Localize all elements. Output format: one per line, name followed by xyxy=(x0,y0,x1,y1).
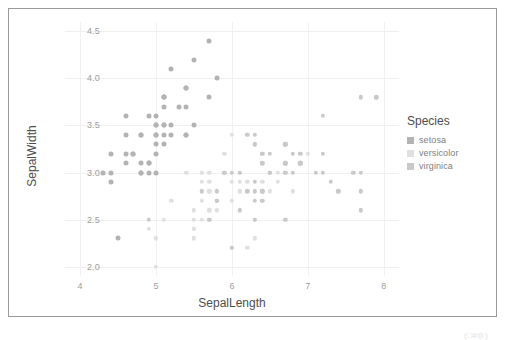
legend-swatch-icon xyxy=(407,137,414,144)
data-point-virginica xyxy=(260,161,264,165)
data-point-versicolor xyxy=(275,180,279,184)
data-point-virginica xyxy=(359,208,363,212)
data-point-virginica xyxy=(230,246,234,250)
data-point-setosa xyxy=(154,123,159,128)
data-point-setosa xyxy=(161,142,166,147)
legend-item-label: virginica xyxy=(419,161,453,171)
legend: Species setosaversicolorvirginica xyxy=(407,114,497,174)
data-point-setosa xyxy=(161,104,166,109)
legend-items: setosaversicolorvirginica xyxy=(407,135,497,171)
legend-item-virginica[interactable]: virginica xyxy=(407,161,497,171)
data-point-setosa xyxy=(123,132,128,137)
data-point-virginica xyxy=(230,170,234,174)
data-point-versicolor xyxy=(245,246,249,250)
data-point-versicolor xyxy=(199,199,203,203)
data-point-versicolor xyxy=(222,152,226,156)
data-point-versicolor xyxy=(207,180,211,184)
data-point-versicolor xyxy=(146,227,150,231)
data-point-virginica xyxy=(283,142,287,146)
data-point-setosa xyxy=(154,114,159,119)
data-point-versicolor xyxy=(237,189,241,193)
data-point-virginica xyxy=(291,170,295,174)
y-axis-tick-label: 4.0 xyxy=(60,73,100,83)
data-point-versicolor xyxy=(306,152,310,156)
data-point-setosa xyxy=(138,161,143,166)
data-point-versicolor xyxy=(237,180,241,184)
data-point-setosa xyxy=(192,123,197,128)
gridline-vertical xyxy=(308,22,309,276)
data-point-virginica xyxy=(253,217,257,221)
data-point-versicolor xyxy=(192,217,196,221)
data-point-versicolor xyxy=(245,180,249,184)
data-point-versicolor xyxy=(253,236,257,240)
data-point-virginica xyxy=(321,170,325,174)
data-point-virginica xyxy=(321,152,325,156)
data-point-virginica xyxy=(283,217,287,221)
data-point-virginica xyxy=(245,189,249,193)
data-point-setosa xyxy=(154,151,159,156)
data-point-setosa xyxy=(154,170,159,175)
data-point-virginica xyxy=(336,189,340,193)
data-point-versicolor xyxy=(215,208,219,212)
data-point-setosa xyxy=(184,132,189,137)
data-point-setosa xyxy=(161,132,166,137)
legend-item-setosa[interactable]: setosa xyxy=(407,135,497,145)
data-point-versicolor xyxy=(199,170,203,174)
data-point-virginica xyxy=(237,208,241,212)
data-point-setosa xyxy=(207,95,212,100)
data-point-virginica xyxy=(253,180,257,184)
data-point-setosa xyxy=(169,132,174,137)
data-point-setosa xyxy=(146,114,151,119)
data-point-setosa xyxy=(146,170,151,175)
y-axis-tick-label: 3.0 xyxy=(60,168,100,178)
data-point-virginica xyxy=(207,217,211,221)
data-point-setosa xyxy=(146,161,151,166)
y-axis-tick-label: 2.5 xyxy=(60,215,100,225)
gridline-vertical xyxy=(384,22,385,276)
data-point-versicolor xyxy=(207,189,211,193)
data-point-virginica xyxy=(215,189,219,193)
data-point-setosa xyxy=(138,132,143,137)
x-axis-label: SepalLength xyxy=(65,296,399,310)
data-point-virginica xyxy=(260,189,264,193)
data-point-virginica xyxy=(222,170,226,174)
data-point-setosa xyxy=(108,170,113,175)
y-axis-tick-label: 2.0 xyxy=(60,262,100,272)
data-point-virginica xyxy=(268,170,272,174)
data-point-virginica xyxy=(328,180,332,184)
data-point-virginica xyxy=(215,199,219,203)
data-point-setosa xyxy=(192,57,197,62)
x-axis-tick-label: 4 xyxy=(65,281,95,291)
data-point-setosa xyxy=(214,76,219,81)
data-point-virginica xyxy=(260,152,264,156)
data-point-virginica xyxy=(253,133,257,137)
data-point-virginica xyxy=(260,199,264,203)
legend-item-label: setosa xyxy=(419,135,446,145)
data-point-virginica xyxy=(291,152,295,156)
x-axis-tick-label: 6 xyxy=(217,281,247,291)
data-point-setosa xyxy=(184,85,189,90)
data-point-virginica xyxy=(298,152,302,156)
data-point-virginica xyxy=(359,170,363,174)
data-point-versicolor xyxy=(275,170,279,174)
legend-swatch-icon xyxy=(407,150,414,157)
data-point-virginica xyxy=(253,189,257,193)
legend-item-versicolor[interactable]: versicolor xyxy=(407,148,497,158)
data-point-virginica xyxy=(374,95,378,99)
data-point-versicolor xyxy=(268,189,272,193)
y-axis-label: SepalWidth xyxy=(25,71,39,241)
data-point-setosa xyxy=(131,151,136,156)
data-point-versicolor xyxy=(169,199,173,203)
x-axis-tick-label: 7 xyxy=(293,281,323,291)
data-point-versicolor xyxy=(161,217,165,221)
data-point-versicolor xyxy=(199,217,203,221)
plot-panel xyxy=(65,22,399,276)
gridline-vertical xyxy=(232,22,233,276)
data-point-versicolor xyxy=(199,180,203,184)
data-point-setosa xyxy=(123,161,128,166)
data-point-setosa xyxy=(184,104,189,109)
data-point-versicolor xyxy=(230,199,234,203)
data-point-virginica xyxy=(237,170,241,174)
x-axis-tick-label: 8 xyxy=(369,281,399,291)
legend-item-label: versicolor xyxy=(419,148,459,158)
